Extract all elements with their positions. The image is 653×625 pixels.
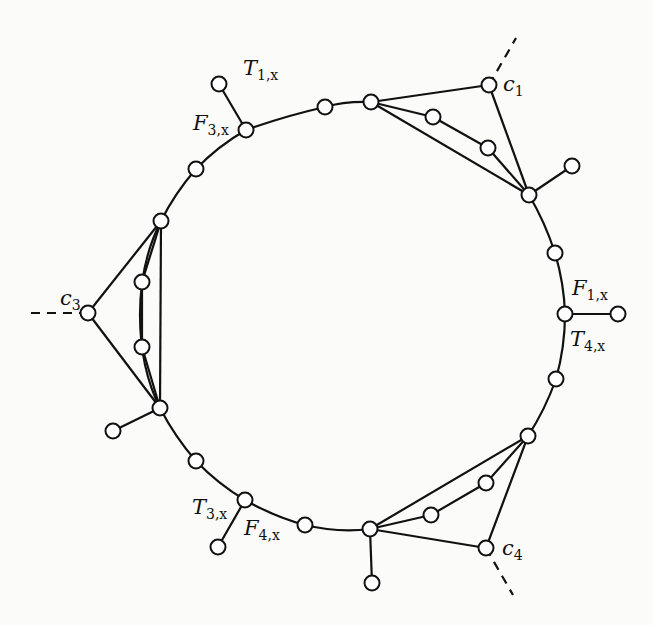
graph-node <box>424 508 439 523</box>
edge <box>370 436 528 529</box>
edge <box>371 102 529 195</box>
graph-node <box>153 401 168 416</box>
graph-node <box>211 540 226 555</box>
label-c4: c4 <box>502 536 523 563</box>
graph-node <box>481 141 496 156</box>
graph-diagram: T1,xF3,xc1F1,xT4,xc3T3,xF4,xc4 <box>0 0 653 625</box>
label-F3x: F3,x <box>193 111 229 138</box>
graph-node <box>135 340 150 355</box>
graph-node <box>479 476 494 491</box>
graph-node <box>548 246 563 261</box>
graph-node <box>154 214 169 229</box>
graph-canvas <box>0 0 653 625</box>
graph-node <box>482 78 497 93</box>
label-T1x: T1,x <box>243 56 278 83</box>
graph-node <box>558 307 573 322</box>
edge <box>370 529 486 548</box>
graph-node <box>365 576 380 591</box>
graph-node <box>318 100 333 115</box>
graph-node <box>212 77 227 92</box>
edge <box>489 85 529 195</box>
graph-node <box>549 372 564 387</box>
label-c3: c3 <box>60 286 81 313</box>
edge <box>486 436 528 548</box>
edge <box>142 221 161 282</box>
label-T4x: T4,x <box>570 327 605 354</box>
graph-node <box>426 110 441 125</box>
graph-node <box>189 454 204 469</box>
edge <box>370 515 431 529</box>
edge <box>160 221 161 408</box>
graph-node <box>189 162 204 177</box>
edge <box>488 148 529 195</box>
graph-node <box>239 123 254 138</box>
edge <box>88 313 160 408</box>
edge <box>371 85 489 102</box>
graph-node <box>238 493 253 508</box>
label-F1x: F1,x <box>572 276 608 303</box>
graph-node <box>298 518 313 533</box>
label-c1: c1 <box>503 72 524 99</box>
graph-node <box>81 306 96 321</box>
graph-node <box>522 188 537 203</box>
label-T3x: T3,x <box>192 495 227 522</box>
edge <box>486 436 528 483</box>
graph-node <box>479 541 494 556</box>
graph-node <box>565 159 580 174</box>
graph-node <box>611 307 626 322</box>
graph-node <box>135 275 150 290</box>
graph-node <box>106 424 121 439</box>
edge <box>371 102 433 117</box>
graph-node <box>363 522 378 537</box>
edge <box>88 221 161 313</box>
graph-node <box>521 429 536 444</box>
label-F4x: F4,x <box>244 516 280 543</box>
graph-node <box>364 95 379 110</box>
edge <box>142 347 160 408</box>
